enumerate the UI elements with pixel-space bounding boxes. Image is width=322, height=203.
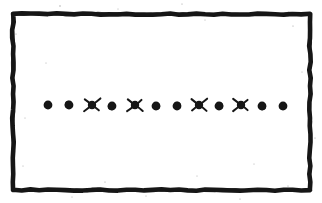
dot-mark — [279, 102, 288, 111]
speckle — [254, 164, 255, 165]
speckle — [287, 185, 288, 186]
dot-mark — [152, 102, 161, 111]
dot-body-overlap — [108, 103, 116, 111]
speckle — [104, 181, 105, 182]
dot-mark — [258, 102, 267, 111]
figure-canvas — [0, 0, 322, 203]
marks-diagram — [0, 0, 322, 203]
star-core-overlap — [131, 102, 138, 109]
dot-body-overlap — [279, 102, 287, 110]
dot-mark — [65, 101, 74, 110]
dot-body-overlap — [65, 101, 73, 109]
speckle — [292, 25, 293, 26]
speckle — [239, 198, 240, 199]
speckle — [302, 72, 303, 73]
dot-mark — [44, 101, 53, 110]
dot-body-overlap — [173, 102, 181, 110]
dot-mark — [215, 102, 224, 111]
speckle — [72, 197, 73, 198]
star-core-overlap — [89, 102, 96, 109]
speckle — [23, 166, 24, 167]
speckle — [25, 118, 26, 119]
speckle — [205, 20, 206, 21]
dot-body-overlap — [259, 103, 267, 111]
speckle — [118, 9, 119, 10]
speckle — [314, 137, 315, 138]
dot-body-overlap — [44, 101, 52, 109]
dot-body-overlap — [153, 102, 161, 110]
star-core-overlap — [195, 102, 202, 109]
speckle — [15, 33, 16, 34]
dot-mark — [108, 102, 117, 111]
speckle — [59, 5, 60, 6]
star-core-overlap — [238, 101, 245, 108]
speckle — [181, 3, 182, 4]
speckle — [146, 196, 147, 197]
dot-mark — [173, 102, 182, 111]
speckle — [197, 176, 198, 177]
speckle — [46, 63, 47, 64]
dot-body-overlap — [216, 102, 224, 110]
